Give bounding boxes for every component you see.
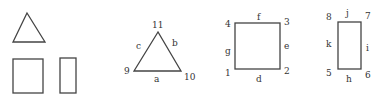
edge-label-top: j — [345, 8, 349, 18]
edge-label-left: k — [326, 39, 332, 49]
edge-label-top: f — [257, 12, 261, 22]
vertex-label-left: 9 — [124, 66, 130, 76]
vertex-label-top-left: 8 — [326, 12, 332, 22]
edge-label-bottom: h — [346, 74, 352, 84]
plain-square — [13, 59, 43, 93]
shapes-diagram: 11 9 10 c b a 4 3 1 2 f e g d 8 7 5 6 j … — [0, 0, 381, 97]
edge-label-left: c — [136, 41, 141, 51]
edge-label-bottom: a — [154, 74, 160, 84]
labeled-triangle: 11 9 10 c b a — [124, 20, 196, 84]
vertex-label-top-right: 3 — [284, 17, 290, 27]
edge-label-left: g — [225, 46, 231, 56]
edge-label-right: i — [366, 43, 369, 53]
labeled-rectangle: 8 7 5 6 j i k h — [326, 8, 371, 84]
vertex-label-bottom-right: 6 — [365, 70, 371, 80]
edge-label-right: e — [284, 41, 289, 51]
edge-label-bottom: d — [256, 74, 262, 84]
edge-label-right: b — [172, 38, 178, 48]
vertex-label-bottom-left: 5 — [326, 68, 332, 78]
vertex-label-top-right: 7 — [365, 11, 371, 21]
labeled-square: 4 3 1 2 f e g d — [225, 12, 290, 84]
vertex-label-top-left: 4 — [225, 19, 231, 29]
plain-triangle — [13, 13, 45, 42]
vertex-label-bottom-left: 1 — [225, 68, 231, 78]
plain-rectangle — [60, 58, 76, 93]
vertex-label-top: 11 — [152, 20, 163, 30]
vertex-label-right: 10 — [184, 72, 196, 82]
vertex-label-bottom-right: 2 — [284, 66, 290, 76]
